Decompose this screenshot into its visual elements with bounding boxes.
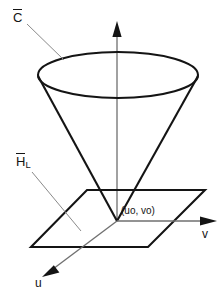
v-axis-label: v — [202, 228, 208, 240]
plane-label: HL — [16, 155, 31, 170]
origin-coordinate-label: (uo, vo) — [121, 206, 155, 216]
u-axis-label: u — [35, 277, 42, 289]
diagram-vector-layer — [0, 0, 224, 301]
plane-label-subscript: L — [25, 160, 30, 170]
u-axis-line — [53, 221, 117, 269]
cone-label-text: C — [13, 11, 22, 24]
cone-label-leader-line — [27, 24, 64, 60]
arrow-right-icon — [200, 216, 217, 225]
cone-label: C — [13, 11, 22, 24]
plane-label-text: H — [16, 155, 25, 168]
cone-top-ellipse — [38, 52, 198, 98]
arrow-up-icon — [112, 21, 121, 37]
diagram-canvas: C HL (uo, vo) v u — [0, 0, 224, 301]
arrow-down-left-icon — [42, 265, 59, 277]
